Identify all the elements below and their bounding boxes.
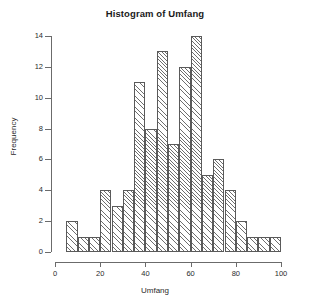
- x-axis-tick: [191, 262, 192, 267]
- x-axis-tick-label: 20: [85, 270, 115, 278]
- histogram-bar: [134, 82, 145, 252]
- plot-area: [55, 36, 281, 252]
- y-axis-tick-label: 0: [3, 248, 43, 256]
- x-axis-label: Umfang: [0, 286, 310, 295]
- x-axis-tick-label: 100: [266, 270, 296, 278]
- y-axis-tick: [45, 98, 51, 99]
- y-axis-tick-label: 2: [3, 217, 43, 225]
- y-axis-line: [51, 36, 52, 252]
- chart-title: Histogram of Umfang: [0, 8, 310, 19]
- histogram-bar: [270, 237, 281, 252]
- x-axis-tick-label: 40: [130, 270, 160, 278]
- histogram-bar: [179, 67, 190, 252]
- y-axis-tick: [45, 252, 51, 253]
- histogram-bar: [112, 206, 123, 252]
- histogram-bar: [66, 221, 77, 252]
- y-axis-label: Frequency: [9, 77, 18, 197]
- y-axis-tick-label: 12: [3, 63, 43, 71]
- y-axis-tick: [45, 159, 51, 160]
- histogram-bar: [258, 237, 269, 252]
- histogram-figure: Histogram of Umfang 02468101214 02040608…: [0, 0, 310, 305]
- histogram-bar: [157, 51, 168, 252]
- x-axis-line: [55, 262, 281, 263]
- histogram-bar: [213, 159, 224, 252]
- histogram-bar: [145, 129, 156, 252]
- histogram-bar: [123, 190, 134, 252]
- histogram-bar: [236, 221, 247, 252]
- histogram-bar: [168, 144, 179, 252]
- x-axis-tick: [281, 262, 282, 267]
- y-axis-tick: [45, 67, 51, 68]
- x-axis-tick: [100, 262, 101, 267]
- y-axis-tick: [45, 221, 51, 222]
- y-axis-tick: [45, 190, 51, 191]
- y-axis-tick: [45, 36, 51, 37]
- x-axis-tick-label: 60: [176, 270, 206, 278]
- histogram-bar: [191, 36, 202, 252]
- x-axis-tick-label: 0: [40, 270, 70, 278]
- x-axis-tick: [55, 262, 56, 267]
- x-axis-tick-label: 80: [221, 270, 251, 278]
- y-axis-tick: [45, 129, 51, 130]
- bars-container: [55, 36, 281, 252]
- x-axis-tick: [236, 262, 237, 267]
- histogram-bar: [100, 190, 111, 252]
- x-axis-tick: [145, 262, 146, 267]
- y-axis-tick-label: 14: [3, 32, 43, 40]
- histogram-bar: [202, 175, 213, 252]
- histogram-bar: [225, 190, 236, 252]
- histogram-bar: [78, 237, 89, 252]
- histogram-bar: [247, 237, 258, 252]
- histogram-bar: [89, 237, 100, 252]
